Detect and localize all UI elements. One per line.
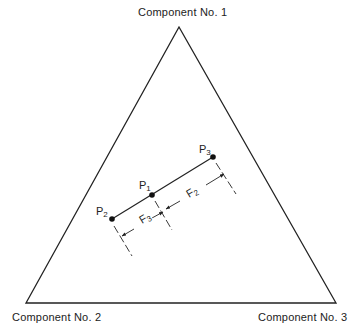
extension-line-p3 — [216, 163, 236, 194]
dimension-line-f3-right — [152, 212, 163, 218]
point-label-p3: P3 — [199, 143, 211, 157]
dimension-line-f3-left — [122, 229, 134, 236]
extension-line-p1 — [155, 201, 172, 230]
vertex-label-component-2: Component No. 2 — [12, 311, 101, 323]
point-label-p1: P1 — [139, 179, 151, 193]
extension-line-p2 — [114, 226, 132, 256]
point-p2-marker — [109, 216, 115, 222]
vertex-label-component-3: Component No. 3 — [258, 311, 347, 323]
dimension-line-f2-left — [166, 201, 180, 209]
point-p1-marker — [149, 192, 155, 198]
point-p3-marker — [210, 154, 216, 160]
tie-line — [112, 157, 213, 219]
dimension-line-f2-right — [206, 174, 224, 185]
ternary-triangle — [26, 27, 336, 303]
vertex-label-component-1: Component No. 1 — [138, 6, 227, 18]
ternary-diagram — [0, 0, 364, 336]
point-label-p2: P2 — [96, 205, 108, 219]
